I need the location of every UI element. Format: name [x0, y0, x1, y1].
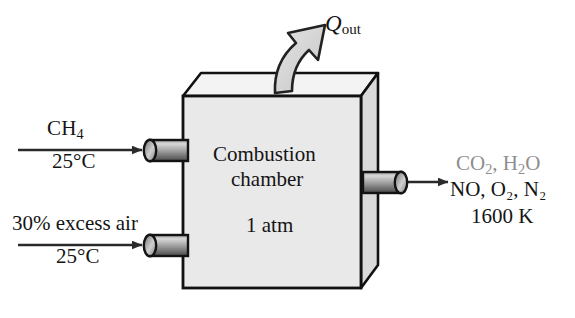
fuel-inlet-label-text: CH — [47, 116, 77, 140]
product-outlet-pipe — [363, 172, 407, 194]
heat-out-label: Qout — [325, 12, 361, 37]
chamber-front-face — [183, 96, 361, 288]
chamber-name-line-2: chamber — [231, 168, 303, 191]
chamber-pressure-label: 1 atm — [246, 214, 293, 237]
fuel-inlet-pipe — [144, 140, 188, 162]
product-o: O — [525, 151, 540, 175]
heat-out-subscript: out — [342, 21, 361, 37]
air-inlet-label: 30% excess air — [12, 212, 138, 235]
heat-out-symbol: Q — [325, 11, 342, 36]
outlet-products-line-1: CO2, H2O — [456, 152, 540, 175]
air-inlet-pipe — [144, 235, 188, 257]
chamber-name-line-1: Combustion — [213, 143, 316, 166]
fuel-inlet-label-subscript: 4 — [77, 126, 84, 142]
fuel-inlet-label: CH4 — [47, 117, 84, 140]
product-h: , H — [492, 151, 518, 175]
outlet-temperature: 1600 K — [471, 205, 533, 228]
fuel-inlet-temperature: 25°C — [52, 150, 95, 173]
air-inlet-temperature: 25°C — [56, 245, 99, 268]
combustion-chamber-diagram: Qout CH4 25°C 30% excess air 25°C Combus… — [0, 0, 575, 318]
product-co: CO — [456, 151, 485, 175]
outlet-products-line-2: NO, O₂, N₂ — [450, 178, 546, 201]
